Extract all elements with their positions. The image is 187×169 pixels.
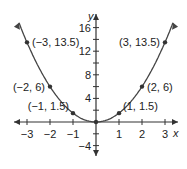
data-point	[25, 40, 29, 44]
point-label: (2, 6)	[147, 81, 173, 93]
arrow-left-icon	[14, 119, 20, 125]
x-tick-label: 3	[162, 128, 168, 140]
data-point	[71, 111, 75, 115]
arrow-up-icon	[93, 14, 99, 20]
y-tick-label: 12	[79, 45, 91, 57]
x-tick-label: 2	[139, 128, 145, 140]
point-label: (1, 1.5)	[123, 100, 158, 112]
x-tick-label: −2	[44, 128, 57, 140]
data-point	[163, 40, 167, 44]
x-tick-label: −1	[67, 128, 80, 140]
data-points: (−3, 13.5)(−2, 6)(−1, 1.5)(1, 1.5)(2, 6)…	[13, 36, 173, 124]
x-tick-label: 1	[116, 128, 122, 140]
point-label: (−2, 6)	[13, 81, 45, 93]
x-tick-label: −3	[21, 128, 34, 140]
y-tick-label: −4	[78, 140, 91, 152]
y-axis-label: y	[87, 10, 95, 22]
point-label: (−1, 1.5)	[28, 100, 69, 112]
y-tick-label: 4	[85, 92, 91, 104]
curve-arrow-left-icon	[14, 23, 20, 30]
data-point	[48, 84, 52, 88]
arrow-down-icon	[93, 150, 99, 156]
data-point	[94, 120, 98, 124]
data-point	[140, 84, 144, 88]
y-tick-label: 16	[79, 22, 91, 34]
curve-arrow-right-icon	[172, 23, 178, 30]
point-label: (−3, 13.5)	[32, 36, 79, 48]
x-axis-label: x	[172, 127, 179, 139]
point-label: (3, 13.5)	[119, 36, 160, 48]
data-point	[117, 111, 121, 115]
arrow-right-icon	[172, 119, 178, 125]
y-tick-label: 8	[85, 69, 91, 81]
parabola-chart: −3−2−1123161284−4 (−3, 13.5)(−2, 6)(−1, …	[0, 0, 187, 169]
